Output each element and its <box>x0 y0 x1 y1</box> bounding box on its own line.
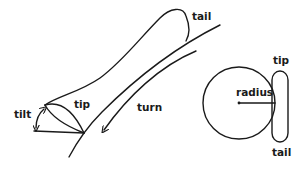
baseline-line <box>34 131 84 133</box>
label-turn: turn <box>137 101 162 113</box>
label-tilt: tilt <box>14 108 31 120</box>
left-figure: tail tip turn tilt <box>14 9 220 157</box>
label-tip-right: tip <box>273 54 290 66</box>
tilt-arc-arrow-icon <box>36 109 44 128</box>
label-tip-left: tip <box>74 98 91 110</box>
label-tail-right: tail <box>272 146 291 158</box>
center-dot <box>238 102 241 105</box>
label-tail-left: tail <box>192 10 211 22</box>
diagram-canvas: tail tip turn tilt tip radius tail <box>0 0 304 172</box>
curved-path-line <box>69 25 220 157</box>
right-figure: tip radius tail <box>203 54 291 158</box>
label-radius: radius <box>236 86 273 98</box>
